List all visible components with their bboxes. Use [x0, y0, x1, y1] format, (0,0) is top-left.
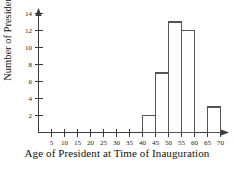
x-axis-title: Age of President at Time of Inauguration	[0, 147, 234, 159]
y-tick-label: 10	[25, 44, 33, 52]
x-tick-label: 70	[217, 139, 225, 147]
y-tick-label: 12	[25, 27, 33, 35]
histogram-bars	[143, 22, 221, 133]
histogram-bar	[169, 22, 182, 133]
y-axis-title: Number of Presidents	[2, 0, 13, 90]
x-tick-label: 25	[100, 139, 108, 147]
y-tick-label: 4	[29, 95, 33, 103]
x-tick-label: 50	[165, 139, 173, 147]
x-tick-label: 65	[204, 139, 212, 147]
histogram-bar	[156, 73, 169, 133]
y-axis-arrow-icon	[35, 8, 41, 16]
x-tick-label: 60	[191, 139, 199, 147]
x-tick-label: 40	[139, 139, 147, 147]
x-tick-label: 15	[74, 139, 82, 147]
x-tick-label: 10	[61, 139, 69, 147]
x-axis-arrow-icon	[221, 129, 229, 135]
x-tick-label: 45	[152, 139, 160, 147]
y-tick-label: 6	[29, 78, 33, 86]
x-tick-label: 20	[87, 139, 95, 147]
x-tick-label: 55	[178, 139, 186, 147]
y-axis-title-wrap: Number of Presidents	[2, 0, 16, 90]
x-tick-label: 5	[50, 139, 54, 147]
x-axis-ticks	[52, 126, 221, 138]
y-tick-label: 8	[29, 61, 33, 69]
histogram-bar	[208, 107, 221, 133]
plot-area: 2 4 6 8 10 12 14 5 10	[0, 0, 234, 169]
y-tick-label: 2	[29, 112, 33, 120]
y-tick-label: 14	[25, 10, 33, 18]
histogram-chart: 2 4 6 8 10 12 14 5 10	[0, 0, 234, 169]
x-tick-label: 35	[126, 139, 134, 147]
y-axis-tick-labels: 2 4 6 8 10 12 14	[25, 10, 33, 120]
x-axis-tick-labels: 5 10 15 20 25 30 35 40 45 50 55 60 65 70	[50, 139, 225, 147]
x-tick-label: 30	[113, 139, 121, 147]
histogram-bar	[143, 116, 156, 133]
histogram-bar	[182, 31, 195, 133]
